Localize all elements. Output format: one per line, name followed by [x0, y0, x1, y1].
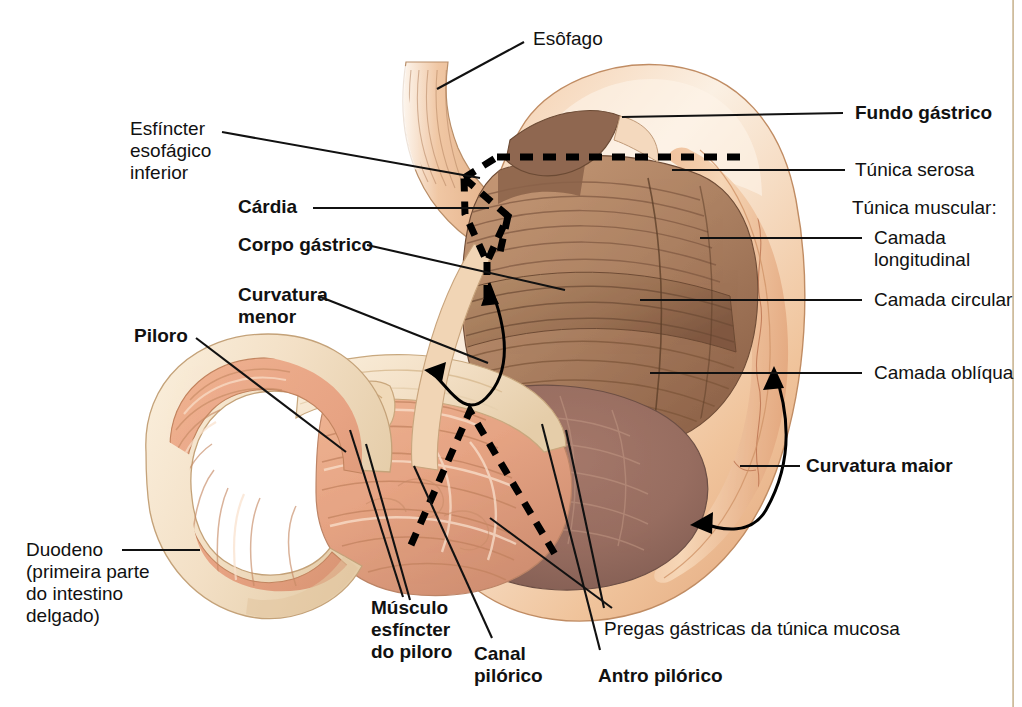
label-duodeno: Duodeno(primeira partedo intestinodelgad… [26, 539, 150, 627]
label-camada-obliqua: Camada oblíqua [874, 362, 1013, 384]
label-canal-line2: pilórico [474, 665, 543, 686]
label-curvatura-menor: Curvaturamenor [238, 284, 328, 328]
label-fundo-gastrico: Fundo gástrico [855, 102, 992, 124]
label-canal-line1: Canal [474, 643, 526, 664]
label-tunica-muscular: Túnica muscular: [852, 197, 997, 219]
label-canal-pilorico: Canalpilórico [474, 643, 543, 687]
label-musculo-line1: Músculo [371, 597, 448, 618]
label-antro-pilorico: Antro pilórico [598, 665, 723, 687]
label-curvatura-menor-line2: menor [238, 306, 296, 327]
label-duodeno-line2: (primeira parte [26, 561, 150, 582]
label-musculo-line3: do piloro [371, 641, 452, 662]
label-esfincter-line3: inferior [130, 162, 188, 183]
leader-esofago [437, 42, 524, 89]
label-duodeno-line4: delgado) [26, 605, 100, 626]
label-camada-longitudinal-line1: Camada [874, 227, 946, 248]
label-esfincter-line2: esofágico [130, 140, 211, 161]
page-edge-artifact [1012, 0, 1014, 707]
label-piloro: Piloro [134, 325, 188, 347]
label-cardia: Cárdia [238, 196, 297, 218]
label-esofago: Esôfago [533, 28, 603, 50]
label-musculo-esfincter-do-piloro: Músculoesfíncterdo piloro [371, 597, 452, 663]
label-camada-longitudinal-line2: longitudinal [874, 249, 970, 270]
label-tunica-serosa: Túnica serosa [855, 159, 974, 181]
label-musculo-line2: esfíncter [371, 619, 450, 640]
label-camada-circular: Camada circular [874, 289, 1012, 311]
label-duodeno-line3: do intestino [26, 583, 123, 604]
label-duodeno-line1: Duodeno [26, 539, 103, 560]
label-camada-longitudinal: Camadalongitudinal [874, 227, 970, 271]
label-esfincter-line1: Esfíncter [130, 118, 205, 139]
label-corpo-gastrico: Corpo gástrico [238, 234, 373, 256]
label-curvatura-menor-line1: Curvatura [238, 284, 328, 305]
label-pregas-gastricas: Pregas gástricas da túnica mucosa [604, 618, 900, 640]
figure-canvas: Esôfago Esfíncteresofágicoinferior Cárdi… [0, 0, 1022, 707]
label-esfincter-esofagico-inferior: Esfíncteresofágicoinferior [130, 118, 211, 184]
label-curvatura-maior: Curvatura maior [806, 455, 953, 477]
